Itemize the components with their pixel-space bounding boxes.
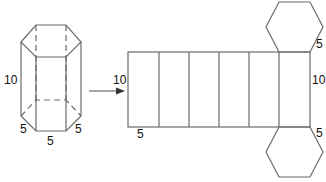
prism-front-edge-label: 5 — [47, 134, 54, 148]
prism-top-face — [21, 25, 81, 57]
net-top-hex-edge-label: 5 — [316, 37, 323, 51]
diagram-canvas: 10 5 5 5 10 5 10 5 5 — [0, 0, 326, 182]
prism-bottom-front — [21, 116, 81, 131]
net-left-height-label: 10 — [113, 73, 127, 87]
prism-right-edge-label: 5 — [75, 122, 82, 136]
net-bottom-hex-edge-label: 5 — [316, 126, 323, 140]
prism-height-label: 10 — [4, 73, 18, 87]
hexagonal-prism: 10 5 5 5 — [4, 25, 82, 148]
prism-net: 10 5 10 5 5 — [113, 2, 326, 177]
net-bottom-hexagon — [266, 127, 323, 177]
prism-bottom-hidden — [21, 100, 81, 116]
prism-left-edge-label: 5 — [20, 122, 27, 136]
arrow-icon — [89, 88, 125, 95]
net-bottom-width-label: 5 — [137, 127, 144, 141]
net-right-height-label: 10 — [312, 73, 326, 87]
net-top-hexagon — [266, 2, 323, 52]
